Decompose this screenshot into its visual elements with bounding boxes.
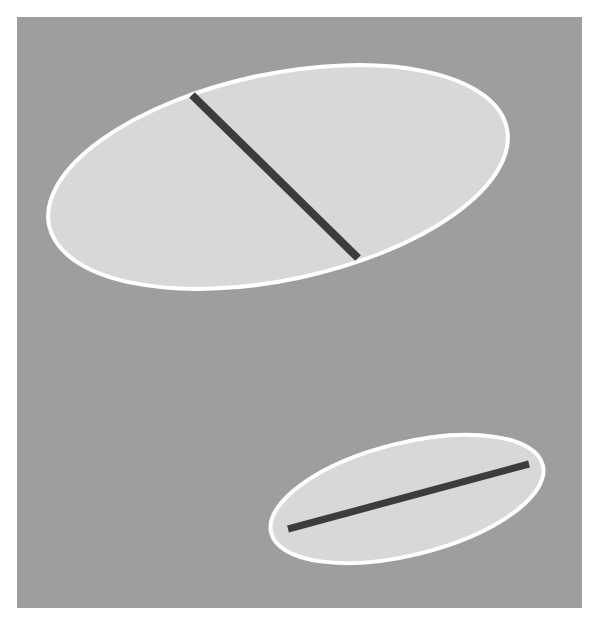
- figure-svg: [0, 0, 599, 627]
- figure-canvas: [0, 0, 599, 627]
